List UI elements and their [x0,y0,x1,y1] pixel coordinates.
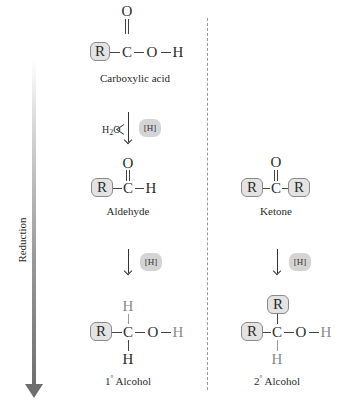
reducing-agent-badge: [H] [139,119,161,137]
bond [277,340,278,351]
reducing-agent-badge: [H] [289,253,311,271]
bond [134,52,144,53]
hydrogen-atom: H [123,352,134,367]
bond [277,314,278,324]
bond [284,332,294,333]
added-hydrogen-atom: H [272,352,283,367]
r-group-box: R [288,178,310,197]
double-bond [125,19,129,34]
secondary-alcohol-label: 2° Alcohol [254,374,300,387]
bond [161,332,171,333]
reduction-gradient-arrow [32,58,36,388]
r-group-box: R [241,322,263,341]
ketone-label: Ketone [260,205,292,217]
bond [112,332,122,333]
down-arrow-icon [277,249,278,273]
r-group-box: R [90,42,110,61]
column-divider [207,18,208,390]
bond [161,52,171,53]
double-bond [126,170,130,181]
oxygen-atom: O [147,45,158,60]
reduction-arrowhead-icon [25,384,43,398]
reducing-agent-badge: [H] [140,253,162,271]
added-hydrogen-atom: H [173,325,184,340]
bond [135,332,145,333]
carbon-atom: C [272,325,282,340]
hydrogen-atom: H [146,181,157,196]
r-group-box: R [90,322,112,341]
carbon-atom: C [271,181,281,196]
reduction-label: Reduction [16,217,28,262]
oxygen-atom: O [123,156,134,171]
carboxylic-acid-label: Carboxylic acid [100,72,170,84]
r-group-box: R [267,295,289,314]
added-hydrogen-atom: H [123,299,134,314]
oxygen-atom: O [296,325,307,340]
oxygen-atom: O [271,155,282,170]
oxygen-atom: O [148,325,159,340]
down-arrow-icon [128,112,129,142]
carbon-atom: C [123,325,133,340]
carbon-atom: C [122,45,132,60]
double-bond [274,170,278,181]
bond [263,188,270,189]
primary-alcohol-label: 1° Alcohol [105,374,151,387]
bond [128,314,129,324]
bond [110,52,120,53]
bond [128,340,129,351]
r-group-box: R [91,178,113,197]
r-group-box: R [241,178,263,197]
carbon-atom: C [123,181,133,196]
hydrogen-atom: H [173,45,184,60]
added-hydrogen-atom: H [321,325,332,340]
bond [113,188,122,189]
bond [309,332,319,333]
down-arrow-icon [128,249,129,273]
aldehyde-label: Aldehyde [107,205,150,217]
bond [135,188,144,189]
bond [263,332,271,333]
oxygen-atom: O [122,4,133,19]
